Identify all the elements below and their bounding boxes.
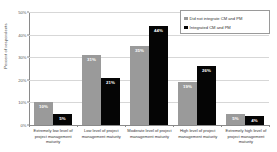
bar-1-4: 4% — [245, 116, 264, 125]
y-axis-title: Percent of respondents — [3, 11, 15, 81]
bar-value-label: 5% — [226, 116, 245, 121]
bar-value-label: 10% — [34, 104, 53, 109]
legend-label-series-0: Did not integrate CM and PM — [190, 16, 243, 21]
y-tick-label: 10% — [18, 100, 26, 105]
bar-1-2: 44% — [149, 26, 168, 125]
legend-swatch-icon-series-0 — [184, 17, 188, 21]
x-tick-label: Low level of project management maturity — [77, 128, 125, 152]
x-tick-label: Moderate level of project management mat… — [125, 128, 173, 152]
bar-value-label: 21% — [101, 80, 120, 85]
bar-value-label: 5% — [53, 116, 72, 121]
bar-0-3: 19% — [178, 82, 197, 125]
x-tick-mark — [125, 125, 126, 127]
bar-chart: Percent of respondents 0%10%20%30%40%50%… — [0, 0, 277, 152]
legend-label-series-1: Integrated CM and PM — [190, 25, 231, 30]
bar-group: 31%21% — [77, 12, 125, 125]
y-tick-label: 40% — [18, 32, 26, 37]
x-tick-mark — [221, 125, 222, 127]
x-tick-label: Extremely high level of project manageme… — [222, 128, 270, 152]
legend-item-series-0: Did not integrate CM and PM — [184, 14, 269, 23]
y-tick-label: 30% — [18, 55, 26, 60]
y-tick-label: 0% — [21, 123, 27, 128]
bar-value-label: 44% — [149, 28, 168, 33]
bar-1-0: 5% — [53, 114, 72, 125]
legend-swatch-icon-series-1 — [184, 26, 188, 30]
bar-1-1: 21% — [101, 78, 120, 125]
x-tick-mark — [29, 125, 30, 127]
x-tick-mark — [77, 125, 78, 127]
bar-value-label: 31% — [82, 57, 101, 62]
bar-value-label: 19% — [178, 84, 197, 89]
x-tick-label: Extremely low level of project managemen… — [29, 128, 77, 152]
legend: Did not integrate CM and PM Integrated C… — [180, 10, 270, 34]
x-tick-label: High level of project management maturit… — [174, 128, 222, 152]
x-axis-line — [29, 125, 270, 126]
bar-value-label: 35% — [130, 48, 149, 53]
legend-item-series-1: Integrated CM and PM — [184, 23, 269, 32]
bar-1-3: 26% — [197, 66, 216, 125]
bar-0-1: 31% — [82, 55, 101, 125]
x-tick-mark — [269, 125, 270, 127]
x-tick-mark — [173, 125, 174, 127]
bar-group: 35%44% — [125, 12, 173, 125]
x-axis-labels: Extremely low level of project managemen… — [29, 128, 270, 152]
y-tick-label: 50% — [18, 10, 26, 15]
bar-0-2: 35% — [130, 46, 149, 125]
y-tick-label: 20% — [18, 77, 26, 82]
bar-group: 10%5% — [29, 12, 77, 125]
bar-0-4: 5% — [226, 114, 245, 125]
bar-value-label: 26% — [197, 68, 216, 73]
bar-value-label: 4% — [245, 118, 264, 123]
bar-0-0: 10% — [34, 102, 53, 125]
